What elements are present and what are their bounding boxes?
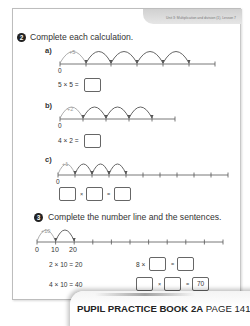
page-curl-shadow [95, 293, 195, 296]
sentence-right-2-times: × [158, 281, 161, 287]
sentence-right-1-prefix: 8 × [136, 261, 145, 268]
sentence-left-2: 4 × 10 = 40 [49, 281, 82, 288]
page-number: PAGE 141 [206, 303, 250, 314]
sentence-right-2-equals: = [186, 281, 189, 287]
number-line-3 [0, 0, 250, 326]
book-title: PUPIL PRACTICE BOOK 2A [77, 303, 203, 314]
tick-label-20: 20 [69, 246, 77, 253]
tick-label-0: 0 [35, 246, 39, 253]
jump-label-3: +10 [41, 228, 50, 234]
sentence-right-2-box-2[interactable] [164, 277, 181, 291]
sentence-right-1-box-1[interactable] [149, 257, 166, 271]
tick-label-10: 10 [51, 246, 59, 253]
sentence-right-1-box-2[interactable] [177, 257, 194, 271]
sentence-left-1: 2 × 10 = 20 [49, 261, 82, 268]
sentence-right-2-box-1[interactable] [136, 277, 153, 291]
sentence-right-1-equals: = [171, 261, 174, 267]
page-reference: PUPIL PRACTICE BOOK 2A PAGE 141 [77, 303, 250, 314]
sentence-right-2-box-3: 70 [192, 277, 209, 291]
